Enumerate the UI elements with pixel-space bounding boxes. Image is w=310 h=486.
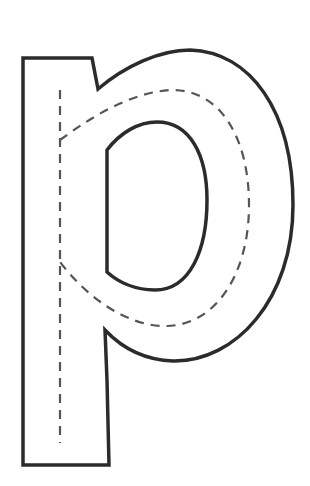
- letter-inner-outline: [107, 122, 207, 290]
- letter-p-outline: [0, 0, 310, 486]
